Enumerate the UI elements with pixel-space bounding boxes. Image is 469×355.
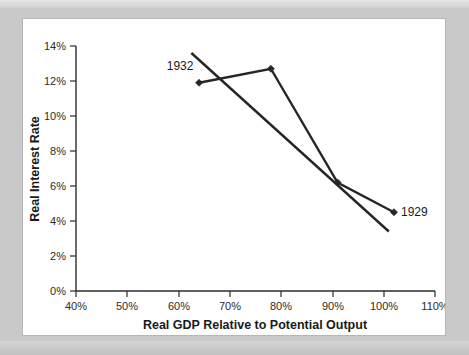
series-observed-path [195, 65, 397, 216]
annotation-1932: 1932 [167, 59, 194, 73]
y-tick-label: 12% [44, 75, 66, 87]
chart-panel: 0% 2% 4% 6% 8% 10% 12% 14% 40% 50% 60% 7… [22, 18, 446, 336]
data-point-marker [195, 79, 202, 86]
y-tick-labels: 0% 2% 4% 6% 8% 10% 12% 14% [44, 40, 66, 297]
y-tick-label: 4% [50, 215, 66, 227]
y-tick-label: 6% [50, 180, 66, 192]
page-edge-top [0, 0, 469, 8]
y-tick-marks [70, 46, 76, 291]
y-tick-label: 8% [50, 145, 66, 157]
x-axis-title: Real GDP Relative to Potential Output [143, 318, 368, 332]
x-tick-label: 90% [322, 300, 344, 312]
page-edge-bottom [0, 341, 469, 355]
x-tick-label: 60% [168, 300, 190, 312]
figure-container: 0% 2% 4% 6% 8% 10% 12% 14% 40% 50% 60% 7… [0, 0, 469, 355]
x-tick-labels: 40% 50% 60% 70% 80% 90% 100% 110% [65, 300, 445, 312]
y-tick-label: 0% [50, 285, 66, 297]
x-tick-marks [76, 291, 435, 297]
x-tick-label: 80% [270, 300, 292, 312]
x-tick-label: 50% [116, 300, 138, 312]
y-tick-label: 2% [50, 250, 66, 262]
y-tick-label: 14% [44, 40, 66, 52]
x-tick-label: 110% [421, 300, 445, 312]
annotation-1929: 1929 [401, 205, 428, 219]
y-tick-label: 10% [44, 110, 66, 122]
x-tick-label: 40% [65, 300, 87, 312]
series-trend-line [191, 53, 388, 232]
chart-plot: 0% 2% 4% 6% 8% 10% 12% 14% 40% 50% 60% 7… [23, 19, 445, 335]
x-tick-label: 100% [370, 300, 398, 312]
x-tick-label: 70% [219, 300, 241, 312]
y-axis-title: Real Interest Rate [28, 116, 42, 222]
